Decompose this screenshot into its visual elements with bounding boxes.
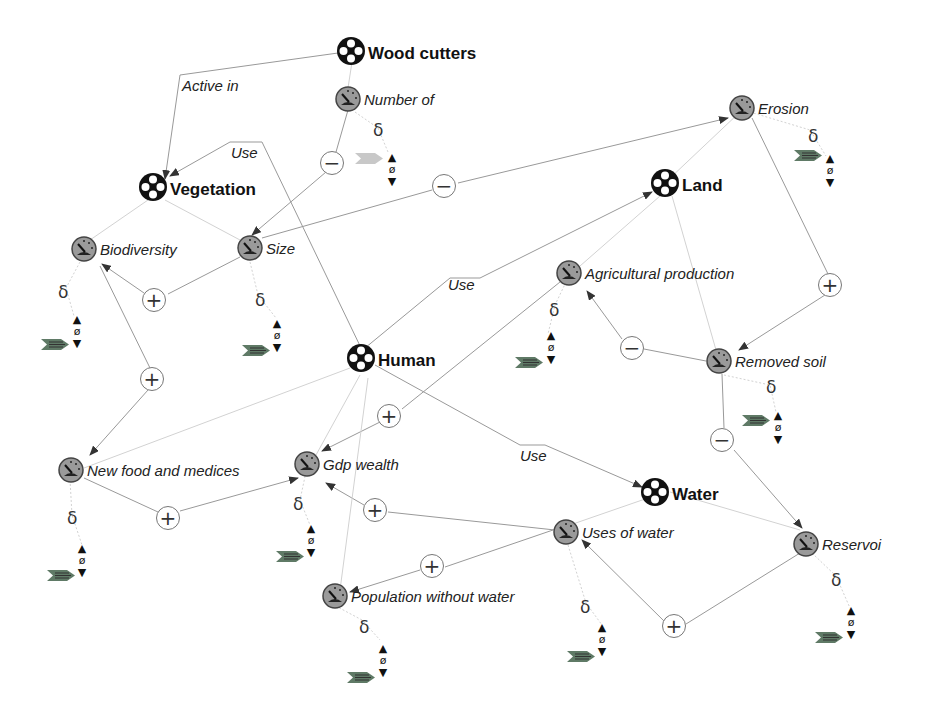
relation-use-water: [375, 365, 642, 487]
quantity-space-agricultural-production[interactable]: ▲ø▼: [545, 330, 557, 365]
influence-minus-number-size[interactable]: −: [320, 151, 344, 175]
delta-size: δ: [255, 290, 265, 310]
delta-biodiversity: δ: [58, 282, 68, 302]
quantity-label: Erosion: [758, 100, 809, 117]
entity-icon: [336, 36, 366, 66]
derivative-arrow-icon: [515, 357, 543, 368]
quantity-label: Removed soil: [735, 353, 826, 370]
influence-plus-biodiversity-newfood[interactable]: +: [140, 367, 164, 391]
derivative-arrow-icon: [276, 551, 304, 562]
quantity-space-number-of[interactable]: ▲ø▼: [386, 152, 398, 187]
quantity-space-erosion[interactable]: ▲ø▼: [824, 153, 836, 188]
gauge-icon: [322, 583, 348, 609]
quantity-label: Population without water: [351, 588, 514, 605]
quantity-size[interactable]: Size: [237, 235, 295, 261]
delta-number-of: δ: [373, 120, 383, 140]
quantity-label: New food and medices: [87, 462, 240, 479]
entity-water[interactable]: Water: [640, 477, 719, 507]
quantity-biodiversity[interactable]: Biodiversity: [71, 236, 177, 262]
entity-human[interactable]: Human: [346, 343, 436, 373]
entity-vegetation[interactable]: Vegetation: [138, 172, 256, 202]
quantity-gdp-wealth[interactable]: Gdp wealth: [294, 451, 399, 477]
entity-icon: [650, 168, 680, 198]
influence-plus-water-gdp[interactable]: +: [363, 498, 387, 522]
delta-removed-soil: δ: [766, 377, 776, 397]
quantity-uses-of-water[interactable]: Uses of water: [553, 519, 674, 545]
entity-label: Land: [682, 176, 723, 196]
quantity-label: Number of: [364, 91, 434, 108]
derivative-arrow-icon: [794, 150, 822, 161]
derivative-arrow-icon: [815, 632, 843, 643]
influence-minus-soil-agri[interactable]: −: [620, 336, 644, 360]
quantity-erosion[interactable]: Erosion: [729, 95, 809, 121]
delta-reservoir: δ: [831, 570, 841, 590]
quantity-label: Agricultural production: [585, 265, 734, 282]
influence-plus-newfood-gdp[interactable]: +: [156, 506, 180, 530]
derivative-arrow-icon: [242, 345, 270, 356]
entity-label: Water: [672, 485, 719, 505]
gauge-icon: [556, 260, 582, 286]
quantity-label: Gdp wealth: [323, 456, 399, 473]
quantity-label: Size: [266, 240, 295, 257]
quantity-space-reservoir[interactable]: ▲ø▼: [845, 605, 857, 640]
gauge-icon: [71, 236, 97, 262]
delta-new-food-and-medices: δ: [67, 508, 77, 528]
influence-minus-size-erosion[interactable]: −: [432, 174, 456, 198]
delta-uses-of-water: δ: [580, 597, 590, 617]
entity-icon: [138, 172, 168, 202]
influence-plus-agri-gdp[interactable]: +: [377, 404, 401, 428]
gauge-icon: [237, 235, 263, 261]
entity-icon: [640, 477, 670, 507]
derivative-arrow-icon: [742, 415, 770, 426]
quantity-number-of[interactable]: Number of: [335, 86, 434, 112]
delta-erosion: δ: [808, 126, 818, 146]
quantity-label: Reservoi: [822, 536, 881, 553]
gauge-icon: [335, 86, 361, 112]
derivative-arrow-icon: [355, 153, 383, 164]
derivative-arrow-icon: [47, 570, 75, 581]
relation-label-active-in: Active in: [182, 77, 239, 94]
gauge-icon: [729, 95, 755, 121]
entity-label: Human: [378, 351, 436, 371]
quantity-space-new-food-and-medices[interactable]: ▲ø▼: [76, 543, 88, 578]
gauge-icon: [793, 531, 819, 557]
entity-label: Wood cutters: [368, 44, 476, 64]
influence-plus-water-population[interactable]: +: [420, 554, 444, 578]
entity-wood-cutters[interactable]: Wood cutters: [336, 36, 476, 66]
influence-minus-soil-reservoir[interactable]: −: [710, 428, 734, 452]
influence-plus-size-biodiversity[interactable]: +: [142, 288, 166, 312]
quantity-reservoir[interactable]: Reservoi: [793, 531, 881, 557]
relation-label-use-land: Use: [448, 276, 475, 293]
gauge-icon: [706, 348, 732, 374]
quantity-space-population-without-water[interactable]: ▲ø▼: [377, 643, 389, 678]
entity-icon: [346, 343, 376, 373]
influence-plus-reservoir-water[interactable]: +: [662, 614, 686, 638]
quantity-label: Uses of water: [582, 524, 674, 541]
gauge-icon: [553, 519, 579, 545]
influence-plus-erosion-soil[interactable]: +: [818, 273, 842, 297]
delta-population-without-water: δ: [359, 617, 369, 637]
quantity-space-biodiversity[interactable]: ▲ø▼: [71, 314, 83, 349]
derivative-arrow-icon: [567, 651, 595, 662]
quantity-agricultural-production[interactable]: Agricultural production: [556, 260, 734, 286]
delta-gdp-wealth: δ: [293, 494, 303, 514]
quantity-new-food-and-medices[interactable]: New food and medices: [58, 457, 240, 483]
quantity-space-removed-soil[interactable]: ▲ø▼: [772, 410, 784, 445]
relation-label-use-water: Use: [520, 447, 547, 464]
delta-agricultural-production: δ: [549, 300, 559, 320]
entity-land[interactable]: Land: [650, 168, 723, 198]
relation-label-use-vegetation: Use: [231, 144, 258, 161]
gauge-icon: [58, 457, 84, 483]
quantity-space-uses-of-water[interactable]: ▲ø▼: [596, 622, 608, 657]
derivative-arrow-icon: [347, 672, 375, 683]
entity-label: Vegetation: [170, 180, 256, 200]
quantity-population-without-water[interactable]: Population without water: [322, 583, 514, 609]
quantity-space-gdp-wealth[interactable]: ▲ø▼: [305, 523, 317, 558]
quantity-removed-soil[interactable]: Removed soil: [706, 348, 826, 374]
quantity-space-size[interactable]: ▲ø▼: [271, 318, 283, 353]
quantity-label: Biodiversity: [100, 241, 177, 258]
model-canvas: Active in Use Use Use Wood cutters Veget…: [0, 0, 942, 717]
gauge-icon: [294, 451, 320, 477]
derivative-arrow-icon: [41, 339, 69, 350]
